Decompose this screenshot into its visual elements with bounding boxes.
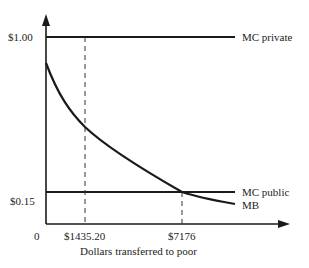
mc-public-label: MC public (242, 186, 289, 198)
mc-private-label: MC private (242, 31, 292, 43)
origin-label: 0 (34, 230, 40, 242)
x-tick-label-7176: $7176 (168, 230, 196, 242)
x-axis-arrow-icon (278, 220, 290, 228)
x-tick-label-1435: $1435.20 (64, 230, 105, 242)
x-axis-title: Dollars transferred to poor (80, 245, 197, 257)
mb-label: MB (242, 199, 259, 211)
y-tick-label-low: $0.15 (10, 195, 35, 207)
y-tick-label-high: $1.00 (8, 31, 33, 43)
y-axis-arrow-icon (42, 14, 50, 26)
mb-curve (46, 63, 235, 204)
